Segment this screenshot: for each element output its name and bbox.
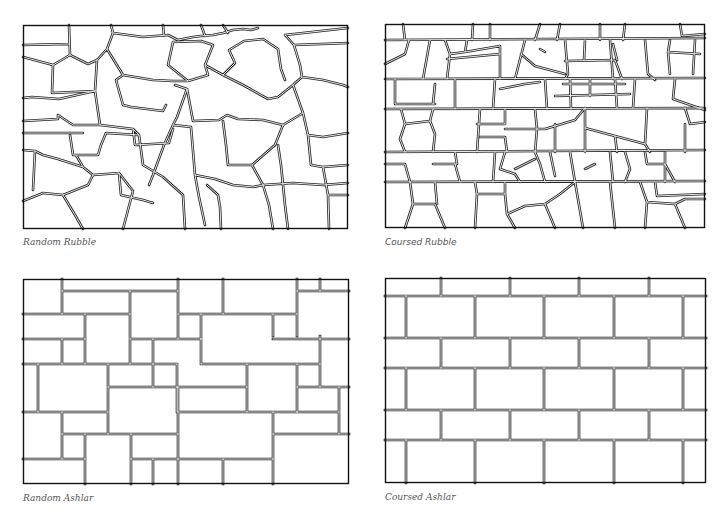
coursed-rubble-caption: Coursed Rubble — [385, 237, 456, 247]
coursed-rubble-drawing — [385, 24, 705, 228]
random-rubble-drawing — [23, 25, 348, 229]
random-rubble-diagram — [23, 25, 348, 229]
random-ashlar-diagram — [23, 279, 349, 484]
random-ashlar-caption: Random Ashlar — [23, 493, 93, 503]
random-ashlar-drawing — [23, 279, 349, 484]
coursed-rubble-diagram — [385, 24, 705, 228]
coursed-ashlar-caption: Coursed Ashlar — [385, 492, 455, 502]
coursed-ashlar-drawing — [385, 278, 706, 483]
random-rubble-caption: Random Rubble — [23, 237, 96, 247]
coursed-ashlar-diagram — [385, 278, 706, 483]
